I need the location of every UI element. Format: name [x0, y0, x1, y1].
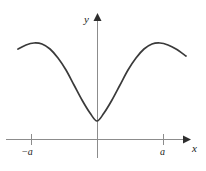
- tick-label-negative-a: −a: [22, 147, 33, 157]
- figure-container: y x −a a: [0, 0, 206, 171]
- x-axis-label: x: [192, 143, 197, 154]
- tick-label-negative-a-variable: a: [28, 146, 33, 157]
- x-axis-arrowhead: [183, 136, 191, 144]
- y-axis-label: y: [84, 14, 89, 25]
- y-axis-arrowhead: [94, 13, 102, 21]
- function-curve: [18, 43, 186, 121]
- tick-label-positive-a: a: [160, 147, 165, 157]
